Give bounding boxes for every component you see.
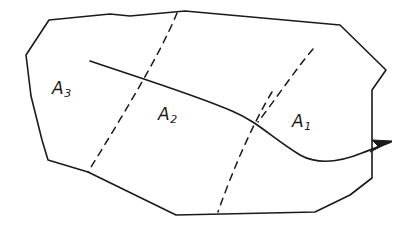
region-label-a3: A3 bbox=[52, 80, 71, 99]
region-label-a3-subscript: 3 bbox=[64, 87, 72, 100]
divider-a2-a1 bbox=[218, 92, 272, 212]
region-label-a1-subscript: 1 bbox=[304, 120, 312, 133]
divider-a3-a2 bbox=[88, 13, 177, 172]
diagram-svg bbox=[0, 0, 412, 227]
region-label-a2-subscript: 2 bbox=[170, 113, 178, 126]
arrowhead-icon bbox=[370, 140, 392, 152]
figure-canvas: A3 A2 A1 bbox=[0, 0, 412, 227]
region-label-a2-base: A bbox=[158, 104, 170, 124]
flow-curve bbox=[90, 61, 391, 161]
divider-a1-upper bbox=[258, 49, 313, 122]
region-label-a1-base: A bbox=[292, 111, 304, 131]
region-label-a1: A1 bbox=[292, 113, 311, 132]
region-label-a3-base: A bbox=[52, 78, 64, 98]
region-label-a2: A2 bbox=[158, 106, 177, 125]
region-boundary bbox=[26, 11, 386, 215]
